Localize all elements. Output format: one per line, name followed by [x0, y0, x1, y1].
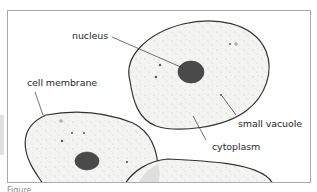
diagram-frame: nucleus cell membrane small vacuole cyto… — [7, 10, 311, 183]
vacuole-dot — [220, 94, 222, 96]
figure-caption: Figure . . . . . . . . . . . . . . . . .… — [7, 186, 128, 192]
page-edge-shadow — [0, 115, 4, 155]
vacuole-dot — [159, 64, 161, 66]
cell-diagram — [8, 11, 311, 183]
vacuole-dot — [71, 132, 73, 134]
label-nucleus: nucleus — [72, 31, 108, 41]
label-cytoplasm: cytoplasm — [212, 142, 260, 152]
vacuole-dot — [155, 76, 157, 78]
vacuole-dot — [61, 140, 63, 142]
vacuole-dot — [83, 132, 85, 134]
nucleus-lower — [75, 152, 99, 170]
vacuole-dot — [126, 161, 128, 163]
label-cell-membrane: cell membrane — [27, 78, 97, 88]
nucleus-upper — [178, 61, 204, 83]
label-small-vacuole: small vacuole — [238, 119, 302, 129]
leader-cell-membrane — [35, 92, 43, 115]
vacuole-dot — [229, 43, 231, 45]
